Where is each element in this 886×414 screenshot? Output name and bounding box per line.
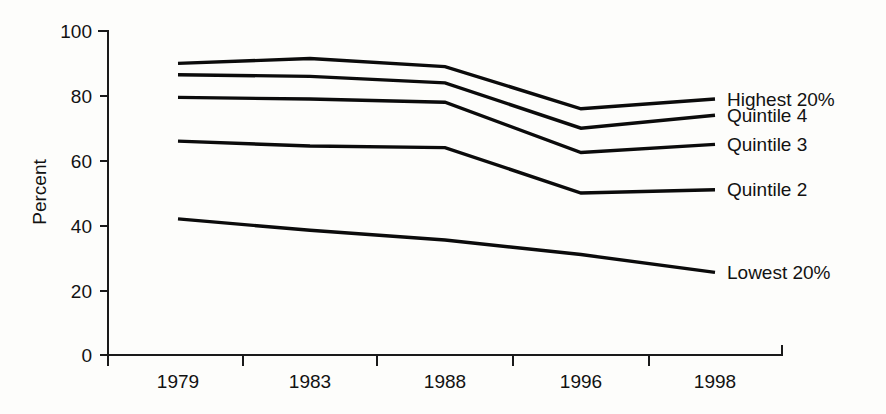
y-axis-line <box>99 31 108 355</box>
x-axis-line <box>108 346 782 355</box>
series-line-lowest-20 <box>178 219 715 272</box>
x-tick-label-1996: 1996 <box>560 371 602 392</box>
y-tick-label-0: 0 <box>81 345 92 366</box>
x-tick-labels: 1979 1983 1988 1996 1998 <box>157 371 736 392</box>
y-tick-label-60: 60 <box>71 151 92 172</box>
x-tick-label-1998: 1998 <box>694 371 736 392</box>
series-label-quintile-2: Quintile 2 <box>727 179 807 200</box>
series-label-quintile-3: Quintile 3 <box>727 134 807 155</box>
axes-group <box>99 31 782 355</box>
line-chart-canvas: 100 80 60 40 20 0 1979 1983 1988 1996 19… <box>0 0 886 414</box>
series-label-group: Highest 20%Quintile 4Quintile 3Quintile … <box>727 89 835 283</box>
chart-figure: 100 80 60 40 20 0 1979 1983 1988 1996 19… <box>0 0 886 414</box>
y-tick-label-80: 80 <box>71 86 92 107</box>
y-axis-title: Percent <box>29 159 50 225</box>
y-tick-marks <box>100 31 108 355</box>
x-tick-marks <box>108 355 649 366</box>
x-tick-label-1983: 1983 <box>289 371 331 392</box>
x-tick-label-1979: 1979 <box>157 371 199 392</box>
series-group <box>178 59 715 273</box>
y-tick-label-20: 20 <box>71 281 92 302</box>
series-label-lowest-20: Lowest 20% <box>727 262 831 283</box>
series-label-quintile-4: Quintile 4 <box>727 105 808 126</box>
y-tick-label-100: 100 <box>60 21 92 42</box>
y-tick-label-40: 40 <box>71 216 92 237</box>
y-tick-labels: 100 80 60 40 20 0 <box>60 21 92 366</box>
x-tick-label-1988: 1988 <box>424 371 466 392</box>
